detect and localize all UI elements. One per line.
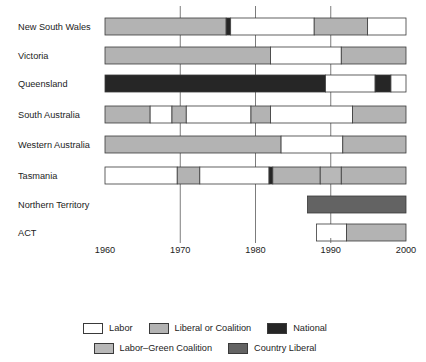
- bar-segment-national: [375, 75, 391, 92]
- bar-segment-liberal-or-coalition: [177, 167, 200, 184]
- legend-label: National: [293, 323, 327, 333]
- bar-segment-labor: [231, 18, 315, 35]
- bar-segment-liberal-or-coalition: [343, 136, 406, 153]
- bar-segment-national: [226, 18, 231, 35]
- bar-segment-liberal-or-coalition: [105, 18, 226, 35]
- bar-row-south-australia: [105, 106, 406, 123]
- row-label-tasmania: Tasmania: [18, 171, 58, 181]
- bar-segment-liberal-or-coalition: [105, 106, 150, 123]
- legend-item-labor-green-coalition: Labor–Green Coalition: [94, 343, 212, 354]
- row-label-northern-territory: Northern Territory: [18, 200, 90, 210]
- bar-segment-country-liberal: [307, 196, 406, 213]
- legend-label: Labor–Green Coalition: [120, 343, 212, 353]
- row-label-new-south-wales: New South Wales: [18, 22, 91, 32]
- bar-segment-labor: [316, 224, 346, 241]
- bar-segment-liberal-or-coalition: [105, 136, 281, 153]
- bar-segment-labor: [186, 106, 251, 123]
- bar-segment-labor: [271, 47, 342, 64]
- legend-swatch: [94, 343, 114, 354]
- bar-segment-liberal-or-coalition: [314, 18, 367, 35]
- bar-segment-liberal-or-coalition: [172, 106, 186, 123]
- legend-row-secondary: Labor–Green CoalitionCountry Liberal: [0, 338, 426, 358]
- row-label-western-australia: Western Australia: [18, 140, 91, 150]
- bar-segment-liberal-or-coalition: [251, 106, 271, 123]
- bar-row-western-australia: [105, 136, 406, 153]
- bar-segment-labor: [281, 136, 343, 153]
- tick-label-1990: 1990: [321, 245, 341, 255]
- tick-label-2000: 2000: [396, 245, 416, 255]
- legend: LaborLiberal or CoalitionNational Labor–…: [0, 318, 426, 362]
- bar-segment-liberal-or-coalition: [341, 167, 406, 184]
- bar-segment-labor: [200, 167, 269, 184]
- bar-row-tasmania: [105, 167, 406, 184]
- legend-swatch: [149, 323, 169, 334]
- bar-segment-labor-green-coalition: [320, 167, 341, 184]
- bar-segment-labor: [368, 18, 406, 35]
- bar-segment-national: [269, 167, 273, 184]
- bar-row-act: [316, 224, 406, 241]
- legend-item-country-liberal: Country Liberal: [228, 343, 316, 354]
- tick-label-1980: 1980: [245, 245, 265, 255]
- bar-segment-liberal-or-coalition: [341, 47, 406, 64]
- bar-segment-liberal-or-coalition: [347, 224, 406, 241]
- tick-label-1960: 1960: [95, 245, 115, 255]
- legend-label: Labor: [109, 323, 133, 333]
- tick-label-1970: 1970: [170, 245, 190, 255]
- legend-label: Country Liberal: [254, 343, 316, 353]
- bar-segment-labor: [391, 75, 406, 92]
- legend-label: Liberal or Coalition: [175, 323, 252, 333]
- bar-segment-national: [105, 75, 325, 92]
- state-government-timeline-chart: New South WalesVictoriaQueenslandSouth A…: [0, 0, 426, 258]
- chart-svg: New South WalesVictoriaQueenslandSouth A…: [0, 0, 426, 258]
- row-label-queensland: Queensland: [18, 79, 68, 89]
- bar-segment-liberal-or-coalition: [353, 106, 406, 123]
- bar-segment-liberal-or-coalition: [273, 167, 320, 184]
- bar-row-northern-territory: [307, 196, 406, 213]
- row-label-act: ACT: [18, 228, 37, 238]
- row-label-south-australia: South Australia: [18, 110, 81, 120]
- bar-row-queensland: [105, 75, 406, 92]
- bar-segment-labor: [325, 75, 375, 92]
- legend-swatch: [228, 343, 248, 354]
- legend-item-liberal-or-coalition: Liberal or Coalition: [149, 323, 252, 334]
- bar-segment-labor: [105, 167, 177, 184]
- legend-swatch: [83, 323, 103, 334]
- legend-item-labor: Labor: [83, 323, 133, 334]
- bar-segment-liberal-or-coalition: [105, 47, 271, 64]
- legend-row-primary: LaborLiberal or CoalitionNational: [0, 318, 426, 338]
- legend-swatch: [267, 323, 287, 334]
- governance-diagram: Dominant types of urban governance Colon…: [0, 262, 426, 314]
- legend-item-national: National: [267, 323, 327, 334]
- bar-row-new-south-wales: [105, 18, 406, 35]
- bar-row-victoria: [105, 47, 406, 64]
- bar-segment-labor: [271, 106, 353, 123]
- bar-segment-labor: [150, 106, 172, 123]
- row-label-victoria: Victoria: [18, 51, 49, 61]
